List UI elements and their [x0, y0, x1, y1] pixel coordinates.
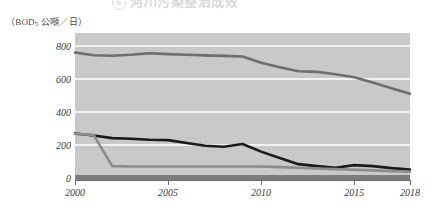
- x-tick-label-2005: 2005: [158, 187, 178, 198]
- x-tick-label-2015: 2015: [344, 187, 364, 198]
- series-line-0: [75, 52, 410, 93]
- y-tick-label-0: 0: [33, 173, 71, 184]
- chart-title: 5河川污染整治成效: [112, 0, 238, 10]
- x-tick-label-2018: 2018: [400, 187, 420, 198]
- y-axis-unit-suffix: 公噸／日）: [39, 17, 87, 27]
- y-axis-unit-prefix: （BOD: [6, 17, 35, 27]
- x-tick-label-2010: 2010: [251, 187, 271, 198]
- title-number-badge: 5: [112, 0, 126, 10]
- x-axis-line: [75, 180, 410, 181]
- x-tick-mark-2010: [261, 180, 262, 185]
- plot-area: [75, 33, 410, 178]
- y-axis-ticks: 8006004002000: [33, 33, 71, 178]
- x-tick-mark-2000: [75, 180, 76, 185]
- x-tick-mark-2005: [168, 180, 169, 185]
- series-lines: [75, 33, 410, 178]
- y-tick-label-200: 200: [33, 140, 71, 151]
- y-tick-label-800: 800: [33, 41, 71, 52]
- x-tick-label-2000: 2000: [65, 187, 85, 198]
- y-axis-unit-label: （BOD5 公噸／日）: [6, 15, 87, 28]
- x-tick-mark-2018: [410, 180, 411, 185]
- y-tick-label-400: 400: [33, 107, 71, 118]
- chart-figure: 5河川污染整治成效 （BOD5 公噸／日） 8006004002000 2000…: [0, 0, 426, 216]
- chart-title-strip: 5河川污染整治成效: [0, 0, 426, 11]
- title-text: 河川污染整治成效: [130, 0, 238, 9]
- y-tick-label-600: 600: [33, 74, 71, 85]
- series-line-1: [75, 134, 410, 170]
- x-tick-mark-2015: [354, 180, 355, 185]
